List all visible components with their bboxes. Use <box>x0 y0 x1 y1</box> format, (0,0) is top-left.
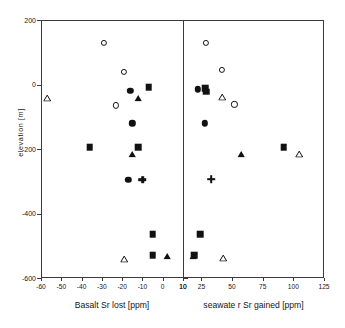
x-tick-mark <box>293 278 294 281</box>
x-tick-label: 75 <box>250 283 276 290</box>
chart-figure: elevation [m] 2000-200-400-600 -60-50-40… <box>0 0 345 328</box>
data-point-square-filled <box>149 231 156 238</box>
x-tick-mark <box>232 278 233 281</box>
data-point-square-filled <box>191 252 198 259</box>
y-tick-label: -200 <box>10 146 36 153</box>
data-point-square-filled <box>149 252 156 259</box>
x-tick-mark <box>142 278 143 281</box>
y-tick-mark-inner <box>184 278 188 279</box>
y-axis-title: elevation [m] <box>16 73 25 193</box>
data-point-triangle-open <box>120 249 128 256</box>
x-tick-mark <box>122 278 123 281</box>
x-tick-label: 125 <box>311 283 337 290</box>
x-tick-mark <box>324 278 325 281</box>
data-point-triangle-open <box>218 87 226 94</box>
data-point-square-filled <box>197 231 204 238</box>
right-x-axis-title: seawate r Sr gained [ppm] <box>163 300 344 310</box>
data-point-triangle-filled <box>237 144 245 151</box>
data-point-square-filled <box>203 88 210 95</box>
x-tick-label: 50 <box>219 283 245 290</box>
data-point-triangle-open <box>220 247 228 254</box>
x-tick-mark <box>102 278 103 281</box>
x-tick-label: 100 <box>280 283 306 290</box>
x-tick-mark <box>183 278 184 281</box>
data-point-triangle-filled <box>163 246 171 253</box>
x-tick-label: 25 <box>188 283 214 290</box>
y-tick-label: -600 <box>10 275 36 282</box>
data-point-square-filled <box>135 144 142 151</box>
x-tick-mark <box>61 278 62 281</box>
data-point-triangle-filled <box>135 88 143 95</box>
x-tick-mark <box>163 278 164 281</box>
data-point-triangle-open <box>43 88 51 95</box>
plot-panel-basalt <box>41 20 183 278</box>
x-tick-mark <box>263 278 264 281</box>
data-point-square-filled <box>145 84 152 91</box>
y-tick-label: 0 <box>10 81 36 88</box>
data-point-plus <box>139 176 147 184</box>
y-tick-label: -400 <box>10 210 36 217</box>
y-tick-label: 200 <box>10 17 36 24</box>
x-tick-mark <box>201 278 202 281</box>
x-tick-mark <box>41 278 42 281</box>
data-point-plus <box>207 175 215 183</box>
data-point-triangle-open <box>296 144 304 151</box>
data-point-square-filled <box>280 144 287 151</box>
data-point-square-filled <box>86 144 93 151</box>
x-tick-mark <box>82 278 83 281</box>
